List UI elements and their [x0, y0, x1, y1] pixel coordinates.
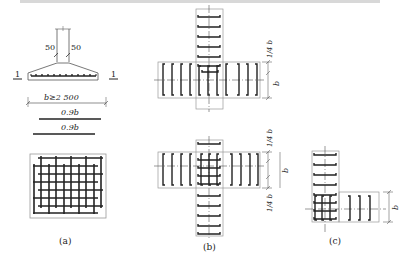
bar-label-1: 0.9b: [61, 108, 79, 117]
bar-label-2: 0.9b: [61, 123, 79, 132]
caption-b: (b): [203, 242, 216, 252]
top-dim-b: b: [272, 81, 281, 86]
bottom-dim-b: b: [281, 168, 290, 173]
top-dim-quarter-b: 1/4 b: [266, 40, 274, 58]
bottom-dim-quarter-b-top: 1/4 b: [266, 129, 274, 147]
corner-horizontal-bars: [315, 196, 370, 220]
panel-a: 50 50 1 1 b≥2 500 0.9b 0.9b: [13, 26, 118, 246]
transverse-bars-horizontal-top: [163, 64, 257, 95]
dim-50-right: 50: [71, 43, 81, 52]
bottom-dim-quarter-b-bottom: 1/4 b: [266, 194, 274, 212]
cropped-header-text: [20, 0, 380, 3]
width-label: b≥2 500: [44, 93, 79, 102]
caption-c: (c): [329, 236, 341, 246]
transverse-bars-horizontal-bottom: [163, 154, 258, 185]
section-mark-left: 1: [15, 70, 20, 79]
section-mark-right: 1: [111, 70, 116, 79]
panel-b: 1/4 b b: [154, 5, 290, 252]
dim-b: b: [391, 205, 400, 210]
caption-a: (a): [59, 236, 71, 246]
foundation-rebar-diagram: 50 50 1 1 b≥2 500 0.9b 0.9b: [0, 0, 404, 262]
rebar-mesh: [33, 156, 103, 214]
panel-c: b (c): [305, 146, 400, 246]
dim-50-left: 50: [45, 43, 55, 52]
